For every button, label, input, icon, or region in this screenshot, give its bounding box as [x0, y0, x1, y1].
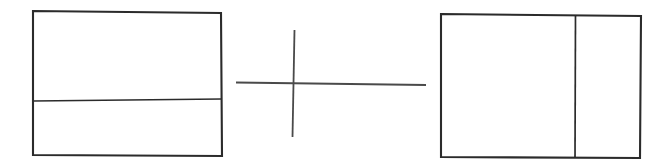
cross-horizontal-line — [236, 83, 426, 86]
right-rectangle-vertical-divider — [575, 15, 576, 158]
right-rectangle-group — [441, 14, 641, 158]
right-rectangle-outline — [441, 14, 641, 158]
center-cross-group — [236, 30, 426, 137]
diagram-canvas — [0, 0, 664, 167]
left-rectangle-horizontal-divider — [33, 99, 222, 101]
left-rectangle-group — [33, 11, 222, 156]
diagram-svg — [0, 0, 664, 167]
left-rectangle-outline — [33, 11, 222, 156]
